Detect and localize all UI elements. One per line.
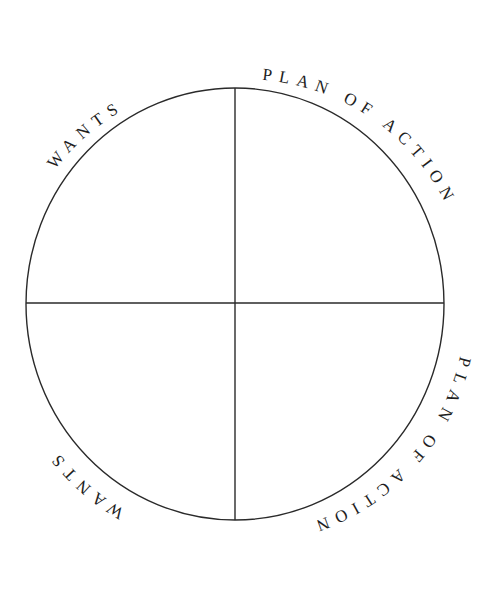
quadrant-top-left[interactable] [40, 100, 233, 301]
wants-plan-diagram: WANTS PLAN OF ACTION PLAN OF ACTION WANT… [0, 0, 488, 608]
quadrant-circle-svg: WANTS PLAN OF ACTION PLAN OF ACTION WANT… [0, 0, 488, 608]
